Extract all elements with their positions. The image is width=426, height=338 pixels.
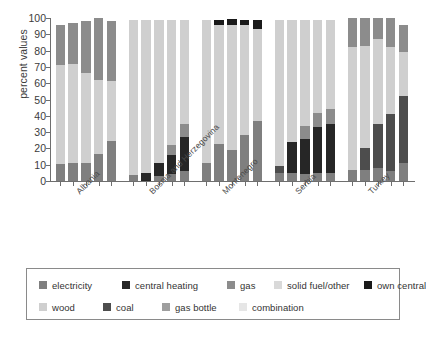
- bar-segment[interactable]: [180, 171, 190, 181]
- bar-segment[interactable]: [129, 20, 139, 176]
- bar-segment[interactable]: [227, 25, 237, 151]
- legend-item[interactable]: combination: [239, 296, 304, 318]
- bar-segment[interactable]: [348, 170, 358, 181]
- bar-segment[interactable]: [326, 173, 336, 181]
- legend-item[interactable]: coal: [103, 296, 134, 318]
- bar-segment[interactable]: [107, 21, 117, 80]
- bar-segment[interactable]: [399, 163, 409, 181]
- bar-segment[interactable]: [107, 141, 117, 181]
- bar[interactable]: [141, 18, 151, 181]
- bar-segment[interactable]: [94, 18, 104, 80]
- legend-item[interactable]: gas: [227, 274, 255, 296]
- bar-segment[interactable]: [373, 124, 383, 168]
- bar[interactable]: [202, 18, 212, 181]
- bar[interactable]: [81, 18, 91, 181]
- bar-segment[interactable]: [287, 173, 297, 181]
- bar-segment[interactable]: [348, 47, 358, 169]
- bar-segment[interactable]: [386, 114, 396, 171]
- bar-segment[interactable]: [180, 20, 190, 124]
- bar-segment[interactable]: [240, 25, 250, 136]
- legend-row-secondary: woodcoalgas bottlecombination: [27, 296, 399, 318]
- bar-segment[interactable]: [348, 18, 358, 47]
- bar-segment[interactable]: [141, 20, 151, 173]
- bar[interactable]: [399, 18, 409, 181]
- bar[interactable]: [275, 18, 285, 181]
- bar[interactable]: [240, 18, 250, 181]
- legend-item[interactable]: solid fuel/other: [274, 274, 350, 296]
- bar-segment[interactable]: [227, 19, 237, 25]
- bar-segment[interactable]: [373, 39, 383, 124]
- bar[interactable]: [129, 18, 139, 181]
- bar-segment[interactable]: [360, 18, 370, 46]
- bar[interactable]: [68, 18, 78, 181]
- bar-segment[interactable]: [141, 173, 151, 181]
- bar[interactable]: [214, 18, 224, 181]
- bar-segment[interactable]: [94, 80, 104, 154]
- bar-segment[interactable]: [313, 127, 323, 173]
- bar-segment[interactable]: [68, 64, 78, 163]
- bar[interactable]: [386, 18, 396, 181]
- bar-segment[interactable]: [129, 175, 139, 181]
- bar-segment[interactable]: [399, 52, 409, 96]
- bar-segment[interactable]: [326, 109, 336, 124]
- legend-item[interactable]: gas bottle: [162, 296, 217, 318]
- bar-segment[interactable]: [313, 113, 323, 128]
- bar[interactable]: [373, 18, 383, 181]
- bar-segment[interactable]: [68, 163, 78, 181]
- bar[interactable]: [360, 18, 370, 181]
- bar-segment[interactable]: [287, 20, 297, 142]
- bar-segment[interactable]: [81, 21, 91, 73]
- bar-segment[interactable]: [275, 20, 285, 166]
- legend-item[interactable]: central heating: [122, 274, 198, 296]
- bar-segment[interactable]: [399, 96, 409, 163]
- bar-segment[interactable]: [81, 73, 91, 163]
- bar-segment[interactable]: [275, 166, 285, 173]
- bar-segment[interactable]: [300, 139, 310, 175]
- bar[interactable]: [94, 18, 104, 181]
- bar-segment[interactable]: [300, 126, 310, 139]
- bar[interactable]: [287, 18, 297, 181]
- bar-segment[interactable]: [326, 20, 336, 110]
- bar-segment[interactable]: [214, 20, 224, 25]
- legend-item[interactable]: electricity: [39, 274, 92, 296]
- bar-segment[interactable]: [253, 29, 263, 120]
- bar-segment[interactable]: [300, 20, 310, 126]
- bar[interactable]: [313, 18, 323, 181]
- legend-item[interactable]: wood: [39, 296, 75, 318]
- bar-segment[interactable]: [240, 20, 250, 25]
- bar-segment[interactable]: [399, 25, 409, 53]
- bar[interactable]: [348, 18, 358, 181]
- bar[interactable]: [56, 18, 66, 181]
- bar-segment[interactable]: [373, 18, 383, 39]
- bar-segment[interactable]: [202, 163, 212, 181]
- bar-segment[interactable]: [167, 20, 177, 146]
- bar-segment[interactable]: [253, 20, 263, 30]
- bar[interactable]: [300, 18, 310, 181]
- bar[interactable]: [227, 18, 237, 181]
- bar-segment[interactable]: [386, 18, 396, 47]
- bar-segment[interactable]: [386, 47, 396, 114]
- bar-segment[interactable]: [180, 124, 190, 137]
- bar-segment[interactable]: [214, 144, 224, 181]
- bar-segment[interactable]: [154, 20, 164, 163]
- bar-segment[interactable]: [68, 23, 78, 64]
- bar-segment[interactable]: [360, 170, 370, 181]
- bar[interactable]: [326, 18, 336, 181]
- bar-segment[interactable]: [56, 164, 66, 181]
- legend-item[interactable]: own central: [364, 274, 426, 296]
- bar[interactable]: [167, 18, 177, 181]
- bar-segment[interactable]: [253, 121, 263, 181]
- bar[interactable]: [154, 18, 164, 181]
- bar-segment[interactable]: [107, 81, 117, 141]
- bar-segment[interactable]: [326, 124, 336, 173]
- legend-swatch-icon: [39, 281, 47, 289]
- bar-segment[interactable]: [275, 173, 285, 181]
- bar[interactable]: [107, 18, 117, 181]
- bar-segment[interactable]: [167, 145, 177, 155]
- bar-segment[interactable]: [56, 65, 66, 164]
- bar-segment[interactable]: [287, 142, 297, 173]
- bar-segment[interactable]: [313, 20, 323, 113]
- bar-segment[interactable]: [360, 46, 370, 149]
- bar-segment[interactable]: [360, 148, 370, 169]
- bar-segment[interactable]: [56, 25, 66, 65]
